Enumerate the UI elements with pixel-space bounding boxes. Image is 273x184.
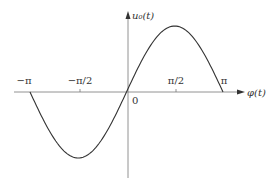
tick-label-neg-half-pi: −π/2 xyxy=(68,75,93,86)
x-axis-arrow-icon xyxy=(237,90,245,95)
tick-label-pi: π xyxy=(221,75,228,86)
tick-label-neg-pi: −π xyxy=(17,75,32,86)
tick-label-half-pi: π/2 xyxy=(168,75,184,86)
sine-plot: −π −π/2 π/2 π 0 φ(t) u₀(t) xyxy=(0,0,273,184)
y-axis-arrow-icon xyxy=(126,11,131,19)
x-axis-label: φ(t) xyxy=(247,87,266,98)
y-axis-label: u₀(t) xyxy=(132,10,154,21)
origin-label: 0 xyxy=(132,95,138,106)
